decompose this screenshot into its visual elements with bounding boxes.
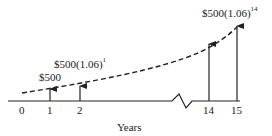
tick-label-0: 0 (19, 105, 25, 116)
annotation-500-1-06-14: $500(1.06)14 (202, 8, 258, 19)
tick-label-1: 1 (47, 105, 53, 116)
tick-label-14: 14 (203, 105, 214, 116)
tick-label-2: 2 (77, 105, 83, 116)
annotation-500: $500 (39, 72, 61, 83)
annotation-500-1-06-1: $500(1.06)1 (54, 59, 106, 70)
tick-label-15: 15 (231, 105, 242, 116)
axis-label: Years (117, 122, 142, 133)
